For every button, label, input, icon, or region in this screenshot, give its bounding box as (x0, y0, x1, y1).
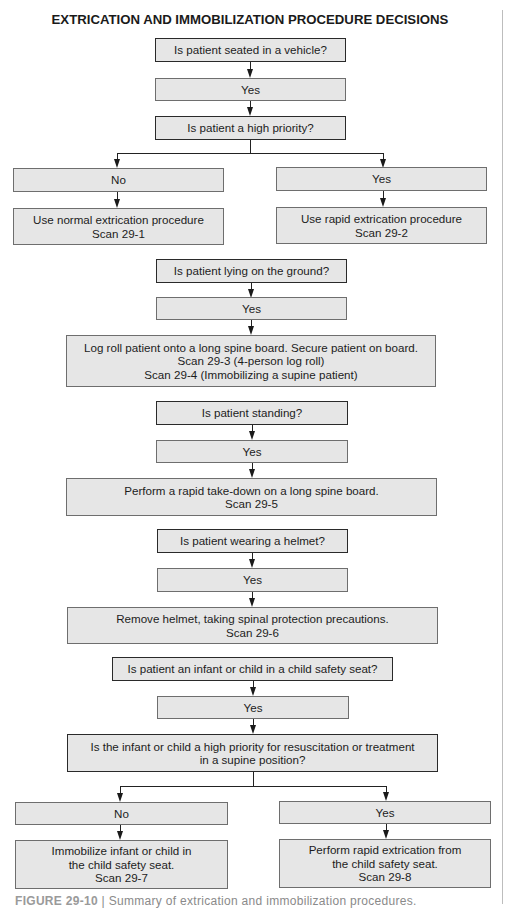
arrow-down-icon (249, 559, 255, 568)
branch-line (120, 786, 387, 787)
answer-standing-yes: Yes (156, 440, 348, 463)
caption-text: Summary of extrication and immobilizatio… (109, 894, 417, 908)
diagram-title: EXTRICATION AND IMMOBILIZATION PROCEDURE… (0, 12, 500, 27)
answer-lying-yes: Yes (156, 297, 347, 320)
node-text: Yes (243, 573, 262, 587)
scan-reference: Scan 29-3 (4-person log roll) (178, 354, 325, 368)
scan-reference: Scan 29-2 (355, 226, 408, 240)
connector (250, 140, 251, 154)
arrow-down-icon (250, 687, 256, 696)
answer-priority-no: No (13, 168, 224, 192)
action-rapid-extrication-seat: Perform rapid extrication from the child… (279, 839, 491, 888)
action-rapid-extrication: Use rapid extrication procedure Scan 29-… (276, 207, 487, 244)
node-text: Is patient standing? (202, 406, 303, 420)
arrow-down-icon (249, 598, 255, 607)
scan-reference: Scan 29-1 (92, 227, 145, 241)
question-high-priority: Is patient a high priority? (155, 116, 346, 140)
action-rapid-takedown: Perform a rapid take-down on a long spin… (66, 478, 437, 516)
node-text: Is patient wearing a helmet? (180, 534, 325, 548)
node-text: No (111, 173, 126, 187)
node-text: Is patient an infant or child in a child… (127, 662, 377, 676)
action-normal-extrication: Use normal extrication procedure Scan 29… (13, 208, 224, 245)
page-margin-rule (502, 10, 503, 904)
answer-infant-yes: Yes (157, 696, 349, 719)
node-text: in a supine position? (200, 753, 306, 767)
scan-reference: Scan 29-4 (Immobilizing a supine patient… (144, 368, 357, 382)
action-log-roll: Log roll patient onto a long spine board… (66, 335, 436, 387)
caption-separator: | (102, 894, 105, 908)
answer-seated-yes: Yes (155, 78, 346, 101)
arrow-down-icon (247, 69, 253, 78)
node-text: Yes (244, 701, 263, 715)
node-text: Immobilize infant or child in (52, 844, 192, 858)
node-text: Perform a rapid take-down on a long spin… (124, 484, 379, 498)
node-text: Is patient a high priority? (187, 121, 313, 135)
answer-helmet-yes: Yes (157, 568, 348, 592)
node-text: Yes (242, 302, 261, 316)
node-text: Yes (243, 445, 262, 459)
arrow-down-icon (380, 198, 386, 207)
question-seated-in-vehicle: Is patient seated in a vehicle? (155, 38, 346, 62)
node-text: the child safety seat. (332, 857, 438, 871)
arrow-down-icon (248, 326, 254, 335)
action-remove-helmet: Remove helmet, taking spinal protection … (67, 607, 438, 644)
node-text: Is patient lying on the ground? (174, 264, 329, 278)
node-text: Yes (241, 83, 260, 97)
action-immobilize-in-seat: Immobilize infant or child in the child … (15, 840, 228, 889)
question-infant-child-seat: Is patient an infant or child in a child… (112, 657, 393, 681)
node-text: the child safety seat. (69, 858, 175, 872)
node-text: Is the infant or child a high priority f… (90, 740, 414, 754)
node-text: Use normal extrication procedure (33, 213, 204, 227)
node-text: Yes (376, 806, 395, 820)
arrow-down-icon (117, 831, 123, 840)
scan-reference: Scan 29-7 (95, 871, 148, 885)
node-text: Remove helmet, taking spinal protection … (116, 612, 389, 626)
arrow-down-icon (250, 725, 256, 734)
question-lying-on-ground: Is patient lying on the ground? (156, 259, 347, 283)
answer-priority-yes: Yes (276, 167, 487, 191)
scan-reference: Scan 29-6 (226, 626, 279, 640)
arrow-down-icon (249, 469, 255, 478)
question-wearing-helmet: Is patient wearing a helmet? (157, 529, 348, 553)
arrow-down-icon (114, 199, 120, 208)
figure-label: FIGURE 29-10 (15, 894, 98, 908)
node-text: Is patient seated in a vehicle? (174, 43, 327, 57)
arrow-down-icon (249, 431, 255, 440)
scan-reference: Scan 29-5 (225, 497, 278, 511)
arrow-down-icon (383, 830, 389, 839)
arrow-down-icon (247, 107, 253, 116)
arrow-down-icon (114, 159, 120, 168)
question-infant-high-priority: Is the infant or child a high priority f… (67, 734, 438, 772)
arrow-down-icon (117, 793, 123, 802)
arrow-down-icon (383, 792, 389, 801)
question-standing: Is patient standing? (156, 401, 348, 425)
node-text: No (114, 807, 129, 821)
scan-reference: Scan 29-8 (359, 870, 412, 884)
node-text: Yes (372, 172, 391, 186)
connector (253, 772, 254, 786)
node-text: Perform rapid extrication from (309, 843, 462, 857)
node-text: Use rapid extrication procedure (301, 212, 462, 226)
node-text: Log roll patient onto a long spine board… (84, 341, 418, 355)
answer-infant-priority-no: No (15, 802, 228, 825)
answer-infant-priority-yes: Yes (279, 801, 491, 824)
figure-caption: FIGURE 29-10 | Summary of extrication an… (15, 894, 417, 908)
branch-line (117, 153, 384, 154)
